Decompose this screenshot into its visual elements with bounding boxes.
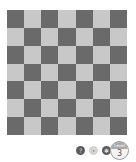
board-cell[interactable] xyxy=(24,10,41,28)
board-cell[interactable] xyxy=(110,81,127,99)
board-cell[interactable] xyxy=(93,81,110,99)
board-cell[interactable] xyxy=(93,10,110,28)
board-cell[interactable] xyxy=(58,117,75,135)
board-cell[interactable] xyxy=(7,10,24,28)
board-cell[interactable] xyxy=(7,28,24,46)
board-cell[interactable] xyxy=(7,117,24,135)
board-cell[interactable] xyxy=(7,81,24,99)
board-cell[interactable] xyxy=(110,10,127,28)
help-icon: ? xyxy=(79,148,82,154)
board-cell[interactable] xyxy=(58,46,75,64)
board-cell[interactable] xyxy=(58,64,75,82)
board-cell[interactable] xyxy=(41,46,58,64)
board-cell[interactable] xyxy=(24,99,41,117)
board-cell[interactable] xyxy=(76,10,93,28)
board-cell[interactable] xyxy=(93,64,110,82)
board-cell[interactable] xyxy=(24,46,41,64)
board-cell[interactable] xyxy=(7,99,24,117)
board-cell[interactable] xyxy=(41,81,58,99)
gear-icon: ✱ xyxy=(104,148,109,154)
board-cell[interactable] xyxy=(7,46,24,64)
board-cell[interactable] xyxy=(76,117,93,135)
board-cell[interactable] xyxy=(110,117,127,135)
board-cell[interactable] xyxy=(93,99,110,117)
hint-icon: • xyxy=(92,148,96,154)
board-cell[interactable] xyxy=(76,99,93,117)
board-cell[interactable] xyxy=(41,64,58,82)
board-cell[interactable] xyxy=(7,64,24,82)
game-board[interactable] xyxy=(7,10,127,135)
board-cell[interactable] xyxy=(110,28,127,46)
board-cell[interactable] xyxy=(76,46,93,64)
board-cell[interactable] xyxy=(110,99,127,117)
board-cell[interactable] xyxy=(41,28,58,46)
board-cell[interactable] xyxy=(41,117,58,135)
board-cell[interactable] xyxy=(24,28,41,46)
board-cell[interactable] xyxy=(58,10,75,28)
board-cell[interactable] xyxy=(93,28,110,46)
board-cell[interactable] xyxy=(24,117,41,135)
level-badge: Level 3 xyxy=(110,141,129,160)
control-bar: ?•✱ xyxy=(76,146,111,155)
board-cell[interactable] xyxy=(76,81,93,99)
board-cell[interactable] xyxy=(58,81,75,99)
hint-button[interactable]: • xyxy=(89,146,98,155)
board-cell[interactable] xyxy=(110,64,127,82)
help-button[interactable]: ? xyxy=(76,146,85,155)
board-cell[interactable] xyxy=(58,99,75,117)
board-cell[interactable] xyxy=(41,10,58,28)
board-cell[interactable] xyxy=(24,64,41,82)
board-cell[interactable] xyxy=(41,99,58,117)
board-cell[interactable] xyxy=(93,117,110,135)
board-cell[interactable] xyxy=(93,46,110,64)
board-cell[interactable] xyxy=(110,46,127,64)
board-cell[interactable] xyxy=(76,28,93,46)
level-badge-label: Level xyxy=(111,142,128,149)
board-cell[interactable] xyxy=(24,81,41,99)
board-cell[interactable] xyxy=(76,64,93,82)
board-cell[interactable] xyxy=(58,28,75,46)
level-badge-value: 3 xyxy=(111,149,128,159)
